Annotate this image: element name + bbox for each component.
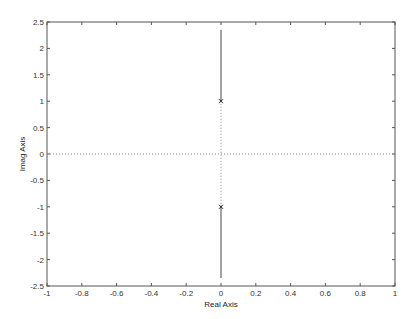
x-tick-label: -0.2 — [179, 289, 193, 298]
y-tick-label: 2 — [40, 44, 45, 53]
x-tick-label: -0.6 — [110, 289, 124, 298]
y-tick-label: 1 — [40, 97, 45, 106]
root-locus-plot: -1-0.8-0.6-0.4-0.200.20.40.60.812.521.51… — [0, 0, 417, 319]
y-tick-label: -1 — [37, 203, 45, 212]
x-tick-label: 0 — [219, 289, 224, 298]
y-tick-label: 0.5 — [33, 124, 45, 133]
x-tick-label: -1 — [43, 289, 51, 298]
y-tick-label: -2 — [37, 256, 45, 265]
x-tick-label: 0.2 — [250, 289, 262, 298]
x-tick-label: 0.6 — [320, 289, 332, 298]
y-axis-label: Imag Axis — [18, 137, 27, 172]
y-tick-label: -0.5 — [30, 176, 44, 185]
y-tick-label: 1.5 — [33, 71, 45, 80]
plot-series — [47, 30, 395, 278]
y-tick-label: -2.5 — [30, 282, 44, 291]
x-tick-label: -0.8 — [75, 289, 89, 298]
y-tick-label: 2.5 — [33, 18, 45, 27]
x-tick-label: 1 — [393, 289, 398, 298]
x-tick-label: 0.4 — [285, 289, 297, 298]
axis-ticks: -1-0.8-0.6-0.4-0.200.20.40.60.812.521.51… — [30, 18, 398, 298]
y-tick-label: 0 — [40, 150, 45, 159]
x-axis-label: Real Axis — [204, 300, 237, 309]
x-tick-label: 0.8 — [355, 289, 367, 298]
y-tick-label: -1.5 — [30, 229, 44, 238]
x-tick-label: -0.4 — [145, 289, 159, 298]
